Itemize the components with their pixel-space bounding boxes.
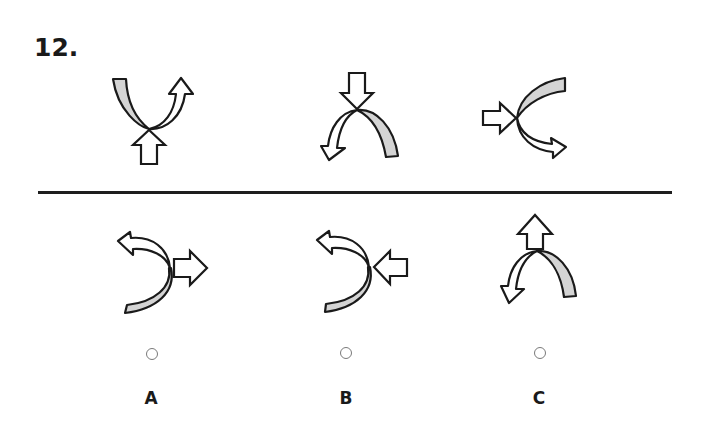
option-b-label[interactable]: B [336,388,356,408]
option-c-radio[interactable] [534,347,546,359]
option-a-radio[interactable] [146,348,158,360]
option-a-label[interactable]: A [141,388,161,408]
option-figure-c [0,0,702,430]
curved-arrow-icon [501,251,537,303]
gray-band-icon [537,251,576,297]
option-b-radio[interactable] [340,347,352,359]
arrow-up-icon [518,215,552,249]
option-c-label[interactable]: C [529,388,549,408]
